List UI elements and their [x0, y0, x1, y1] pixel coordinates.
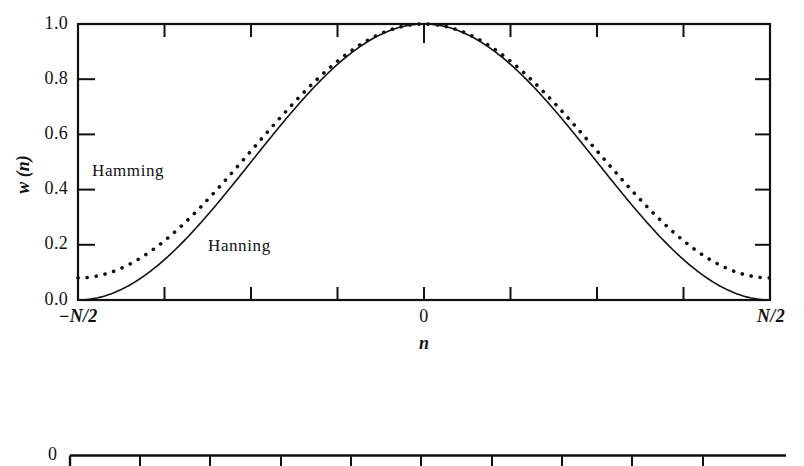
y-axis-title-wrap: w (n): [2, 130, 42, 220]
second-plot-cropped: [0, 0, 804, 466]
y-tick-label-1-0: 1.0: [8, 13, 68, 34]
annotation-hamming: Hamming: [92, 161, 164, 181]
x-tick-label-right: N/2: [726, 306, 804, 327]
second-plot-frame: [70, 456, 786, 466]
y-tick-label-0-2: 0.2: [8, 233, 68, 254]
x-tick-label-left: −N/2: [33, 306, 123, 327]
annotation-hanning: Hanning: [208, 236, 271, 256]
second-plot-x-ticks: [140, 456, 703, 466]
second-plot-y-label-top: 0: [48, 444, 57, 465]
x-tick-label-center: 0: [379, 306, 469, 327]
y-tick-label-0-8: 0.8: [8, 68, 68, 89]
y-axis-title: w (n): [13, 130, 34, 220]
x-axis-title: n: [419, 333, 429, 354]
figure-root: 1.0 0.8 0.6 0.4 0.2 0.0 w (n) −N/2 0 N/2…: [0, 0, 804, 466]
